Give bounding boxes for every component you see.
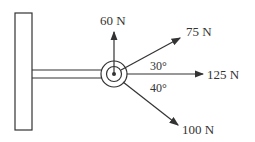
force-75n-label: 75 N — [186, 24, 212, 39]
force-125n-label: 125 N — [207, 67, 240, 82]
force-diagram: 60 N 75 N 125 N 100 N 30° 40° — [0, 0, 255, 142]
force-100n-label: 100 N — [182, 122, 215, 137]
angle-40-label: 40° — [150, 81, 167, 95]
angle-30-label: 30° — [150, 59, 167, 73]
force-60n-label: 60 N — [100, 13, 126, 28]
rod — [32, 70, 102, 78]
diagram-canvas: 60 N 75 N 125 N 100 N 30° 40° — [0, 0, 255, 142]
wall — [15, 13, 32, 130]
